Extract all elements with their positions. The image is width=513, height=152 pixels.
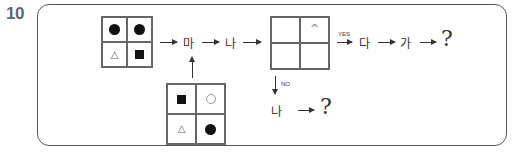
grid-cell [167,84,196,114]
filled-circle-icon [134,24,145,35]
arrow-right-icon [298,110,314,111]
no-result-question-mark: ? [320,94,332,119]
grid-cell: △ [167,114,196,144]
open-triangle-icon: △ [111,50,119,60]
arrow-right-icon [420,42,436,43]
filled-square-icon [135,50,144,59]
step-label-na: 나 [225,34,236,51]
grid-cell [271,43,300,69]
step-label-ga: 가 [400,34,411,51]
arrow-right-icon [337,42,352,43]
grid-cell [300,43,329,69]
filled-square-icon [177,95,186,104]
caret-icon: ^ [310,23,319,34]
no-step-label-na: 나 [271,102,282,119]
input-grid-bottom: △ [166,83,226,145]
question-number: 10 [6,4,24,24]
input-grid-top: △ [101,16,153,68]
arrow-up-icon [192,58,193,78]
grid-cell: ^ [300,17,329,43]
open-circle-icon [206,94,216,104]
arrow-right-icon [160,42,177,43]
grid-cell [196,84,225,114]
grid-cell: △ [102,42,127,67]
arrow-right-icon [202,42,219,43]
grid-cell [102,17,127,42]
arrow-right-icon [378,42,395,43]
yes-label: YES [338,31,350,37]
arrow-right-icon [243,42,261,43]
arrow-down-icon [275,76,276,93]
grid-cell [271,17,300,43]
filled-circle-icon [205,124,216,135]
step-label-da: 다 [359,34,370,51]
grid-cell [127,42,152,67]
decision-grid: ^ [270,16,330,70]
yes-result-question-mark: ? [441,26,453,51]
filled-circle-icon [109,24,120,35]
no-label: NO [281,81,290,87]
grid-cell [196,114,225,144]
open-triangle-icon: △ [178,124,186,134]
step-label-ma: 마 [183,34,194,51]
grid-cell [127,17,152,42]
